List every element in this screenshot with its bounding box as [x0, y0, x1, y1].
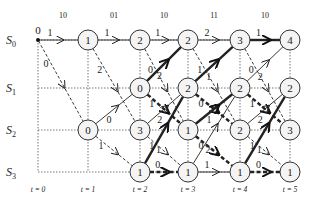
- time-label: t = 3: [181, 185, 196, 194]
- node-metric: 2: [185, 82, 191, 94]
- branch-line: [93, 49, 135, 122]
- branch-line: [38, 41, 83, 121]
- branch-metric-label: 1: [104, 27, 109, 38]
- state-label: S3: [6, 165, 16, 181]
- node-metric: 0: [85, 124, 91, 136]
- time-label: t = 5: [283, 185, 298, 194]
- node-metric: 4: [287, 34, 293, 46]
- node-metric: 3: [237, 34, 243, 46]
- state-label: S0: [6, 33, 16, 49]
- branch-metric-label: 1: [256, 27, 261, 38]
- node-metric: 3: [287, 124, 293, 136]
- trellis-diagram: 101201102121102110102110212110 010203122…: [0, 0, 317, 207]
- received-bits-label: 10: [261, 11, 269, 20]
- node-metric: 0: [137, 82, 143, 94]
- branch-metric-label: 0: [155, 159, 160, 170]
- node-metric: 2: [287, 82, 293, 94]
- branch-metric-label: 1: [47, 27, 52, 38]
- time-label: t = 2: [133, 185, 148, 194]
- node-metric: 1: [137, 166, 143, 178]
- branch-metric-label: 1: [197, 64, 202, 75]
- arrow-icon: [265, 151, 267, 152]
- branch-line: [245, 49, 285, 122]
- time-label: t = 0: [31, 185, 46, 194]
- received-bits-label: 10: [160, 11, 168, 20]
- branch-metric-label: 2: [157, 70, 162, 81]
- branch-metric-label: 2: [204, 27, 209, 38]
- node-metric: 2: [185, 34, 191, 46]
- time-label: t = 4: [233, 185, 248, 194]
- node-metric: 3: [137, 124, 143, 136]
- node-metric: 1: [85, 34, 91, 46]
- branch-metric-label: 1: [204, 159, 209, 170]
- branch-metric-label: 1: [206, 71, 211, 82]
- time-label: t = 1: [81, 185, 96, 194]
- received-bits-label: 11: [210, 11, 218, 20]
- start-node: [36, 38, 40, 42]
- branch-metric-label: 1: [98, 140, 103, 151]
- branch-metric-label: 2: [157, 114, 162, 125]
- received-bits-label: 10: [59, 11, 67, 20]
- node-metric: 1: [237, 166, 243, 178]
- branch-metric-label: 0: [256, 159, 261, 170]
- branch-metric-label: 2: [258, 71, 263, 82]
- received-bits-label: 01: [110, 11, 118, 20]
- branch-metric-label: 0: [148, 64, 153, 75]
- state-label: S2: [6, 123, 16, 139]
- trellis-svg: 101201102121102110102110212110 010203122…: [0, 0, 317, 207]
- node-metric: 1: [287, 166, 293, 178]
- branch-metric-label: 1: [206, 114, 211, 125]
- node-metric: 1: [185, 166, 191, 178]
- branch-metric-label: 1: [155, 27, 160, 38]
- branch-metric-label: 1: [257, 144, 262, 155]
- branch-metric-label: 0: [106, 114, 111, 125]
- branches: 101201102121102110102110212110: [38, 27, 285, 172]
- branch-metric-label: 0: [43, 58, 48, 69]
- branch-line: [96, 94, 132, 123]
- branch-metric-label: 1: [250, 98, 255, 109]
- node-metric: 2: [237, 124, 243, 136]
- branch-metric-label: 2: [97, 64, 102, 75]
- node-metric: 2: [137, 34, 143, 46]
- branch-metric-label: 0: [249, 64, 254, 75]
- state-label: S1: [6, 81, 16, 97]
- branch-metric-label: 2: [205, 144, 210, 155]
- node-metric: 1: [185, 124, 191, 136]
- node-metric: 2: [237, 82, 243, 94]
- branch-metric-label: 1: [156, 144, 161, 155]
- branch-metric-label: 1: [149, 98, 154, 109]
- node-metric: 0: [35, 24, 41, 36]
- branch-metric-label: 0: [198, 98, 203, 109]
- branch-metric-label: 2: [258, 114, 263, 125]
